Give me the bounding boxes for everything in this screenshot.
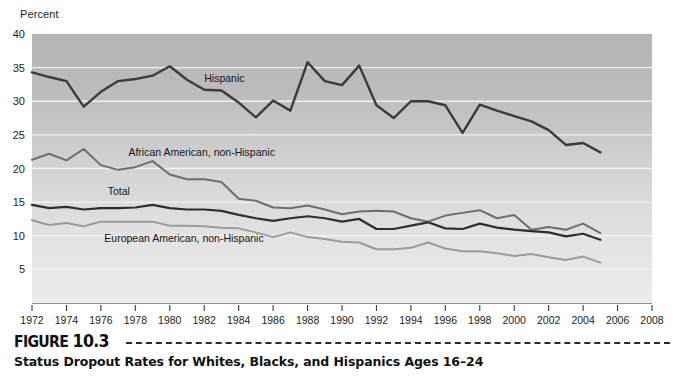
y-axis-tick-label: 15	[13, 196, 25, 208]
caption-dashed-rule	[126, 342, 670, 344]
figure-container: Percent 51015202530354019721974197619781…	[0, 0, 678, 377]
figure-number-line: FIGURE 10.3	[14, 330, 670, 352]
x-axis-tick-label: 2002	[537, 314, 561, 326]
y-axis-tick-label: 10	[13, 230, 25, 242]
y-axis-tick-label: 30	[13, 95, 25, 107]
y-axis-tick-label: 25	[13, 129, 25, 141]
y-axis-tick-label: 20	[13, 163, 25, 175]
x-axis-tick-label: 1980	[158, 314, 182, 326]
x-axis-tick-label: 1998	[468, 314, 492, 326]
x-axis-tick-label: 1976	[89, 314, 113, 326]
x-axis-tick-label: 1982	[193, 314, 217, 326]
x-axis-tick-label: 1972	[20, 314, 44, 326]
x-axis-tick-label: 1990	[330, 314, 354, 326]
y-axis-tick-label: 5	[19, 263, 25, 275]
x-axis-tick-label: 2004	[571, 314, 595, 326]
x-axis-tick-label: 2006	[606, 314, 630, 326]
chart-area: Percent 51015202530354019721974197619781…	[0, 0, 678, 330]
x-axis-tick-label: 2008	[640, 314, 664, 326]
y-axis-tick-label: 35	[13, 62, 25, 74]
x-axis-tick-label: 1996	[434, 314, 458, 326]
series-label-1: Hispanic	[204, 72, 244, 84]
x-axis-tick-label: 1986	[261, 314, 285, 326]
series-label-2: African American, non-Hispanic	[128, 146, 274, 158]
figure-number: FIGURE 10.3	[14, 330, 109, 351]
figure-caption-text: Status Dropout Rates for Whites, Blacks,…	[14, 354, 670, 369]
x-axis-tick-label: 1992	[365, 314, 389, 326]
x-axis-tick-label: 1984	[227, 314, 251, 326]
line-chart-plot: 5101520253035401972197419761978198019821…	[0, 0, 678, 330]
figure-label-word: FIGURE	[14, 332, 68, 351]
x-axis-tick-label: 1978	[124, 314, 148, 326]
x-axis-tick-label: 1974	[55, 314, 79, 326]
y-axis-tick-label: 40	[13, 28, 25, 40]
figure-label-number: 10.3	[73, 330, 109, 351]
x-axis-tick-label: 1988	[296, 314, 320, 326]
figure-caption-block: FIGURE 10.3 Status Dropout Rates for Whi…	[14, 330, 670, 369]
x-axis-tick-label: 2000	[503, 314, 527, 326]
x-axis-tick-label: 1994	[399, 314, 423, 326]
series-label-3: Total	[108, 185, 130, 197]
series-label-4: European American, non-Hispanic	[104, 232, 263, 244]
